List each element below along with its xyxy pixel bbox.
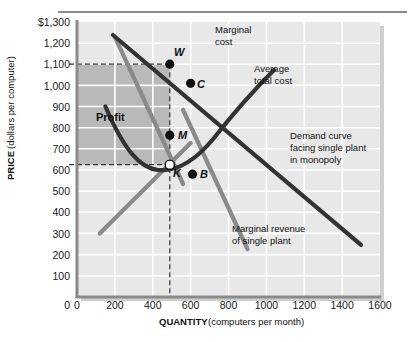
point-c-marker [186, 79, 195, 88]
x-tick-0: 0 [74, 299, 80, 311]
x-tick-6: 1200 [293, 299, 317, 311]
y-tick-12: 100 [52, 270, 70, 282]
x-axis-ticks: 0 200 400 600 800 1000 1200 1400 1600 [74, 299, 392, 311]
point-b-marker [188, 170, 197, 179]
x-tick-1: 200 [106, 299, 124, 311]
y-tick-5: 800 [52, 122, 70, 134]
plot-shadow-right [380, 26, 384, 301]
x-tick-5: 1000 [255, 299, 279, 311]
y-tick-4: 900 [52, 101, 70, 113]
y-axis-unit: (dollars per computer) [5, 56, 16, 149]
chart-svg: W C M K B Profit Marginal cost Average t… [0, 0, 413, 342]
marginal-revenue-label-line2: of single plant [232, 235, 291, 246]
x-axis-title-group: QUANTITY (computers per month) [159, 316, 304, 327]
y-axis-title: PRICE [5, 151, 16, 180]
y-tick-7: 600 [52, 164, 70, 176]
demand-curve-label-line1: Demand curve [290, 130, 352, 141]
point-w-label: W [174, 46, 186, 58]
x-tick-7: 1400 [330, 299, 354, 311]
y-tick-9: 400 [52, 206, 70, 218]
x-tick-3: 600 [182, 299, 200, 311]
y-tick-3: 1,000 [44, 80, 70, 92]
demand-curve-label-line3: in monopoly [290, 154, 341, 165]
y-tick-10: 300 [52, 228, 70, 240]
point-m-label: M [178, 129, 188, 141]
profit-label: Profit [96, 111, 125, 123]
y-tick-11: 200 [52, 249, 70, 261]
y-tick-1: 1,200 [44, 37, 70, 49]
y-tick-2: 1,100 [44, 58, 70, 70]
marginal-cost-label-line1: Marginal [215, 24, 251, 35]
x-axis-unit: (computers per month) [208, 316, 304, 327]
y-tick-6: 700 [52, 143, 70, 155]
y-tick-0: $1,300 [38, 16, 70, 28]
point-c-label: C [197, 78, 206, 90]
x-tick-8: 1600 [368, 299, 392, 311]
point-k-label: K [173, 167, 182, 179]
demand-curve-label-line2: facing single plant [290, 142, 366, 153]
marginal-cost-label-line2: cost [215, 36, 233, 47]
marginal-revenue-label-line1: Marginal revenue [232, 223, 305, 234]
y-tick-8: 500 [52, 185, 70, 197]
x-tick-2: 400 [144, 299, 162, 311]
point-m-marker [165, 131, 174, 140]
average-total-cost-label-line2: total cost [254, 75, 292, 86]
point-b-label: B [200, 168, 208, 180]
economics-monopoly-chart: W C M K B Profit Marginal cost Average t… [0, 0, 413, 342]
point-w-marker [165, 60, 174, 69]
x-tick-4: 800 [220, 299, 238, 311]
y-tick-13: 0 [64, 299, 70, 311]
average-total-cost-label-line1: Average [254, 63, 289, 74]
y-axis-title-group: PRICE (dollars per computer) [5, 56, 16, 180]
x-axis-title: QUANTITY [159, 316, 208, 327]
y-axis-ticks: $1,300 1,200 1,100 1,000 900 800 700 600… [38, 16, 70, 311]
